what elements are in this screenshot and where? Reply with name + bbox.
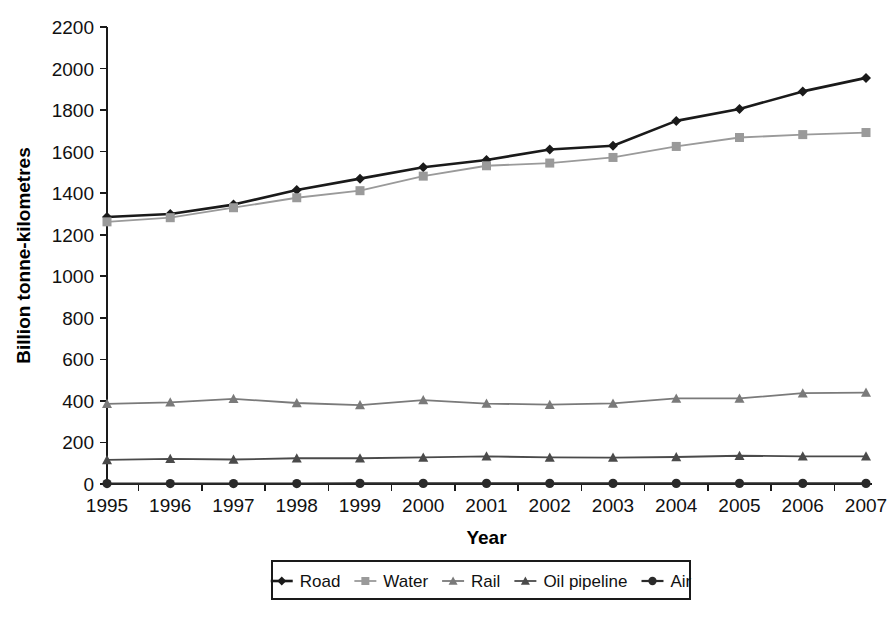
data-point-marker <box>861 479 870 488</box>
series-rail <box>102 388 871 410</box>
data-point-marker <box>672 142 681 151</box>
series-line <box>107 78 866 217</box>
x-axis-tick-label: 2004 <box>655 495 698 516</box>
x-axis-tick-label: 1995 <box>86 495 128 516</box>
series-line <box>107 133 866 222</box>
data-point-marker <box>419 479 428 488</box>
data-point-marker <box>735 133 744 142</box>
x-axis-tick-label: 2000 <box>402 495 444 516</box>
chart-container: 0200400600800100012001400160018002000220… <box>0 0 889 631</box>
data-point-marker <box>102 479 111 488</box>
chart-legend[interactable]: RoadWaterRailOil pipelineAir <box>271 561 692 599</box>
data-point-marker <box>292 479 301 488</box>
data-point-marker <box>418 162 428 172</box>
data-point-marker <box>292 193 301 202</box>
y-axis-tick-label: 1800 <box>52 100 94 121</box>
series-oil-pipeline <box>102 451 871 464</box>
y-axis-tick-label: 0 <box>83 474 94 495</box>
line-chart: 0200400600800100012001400160018002000220… <box>0 0 889 631</box>
y-axis-tick-label: 800 <box>62 308 94 329</box>
data-point-marker <box>419 172 428 181</box>
y-axis-tick-label: 1200 <box>52 225 94 246</box>
data-point-marker <box>361 577 369 585</box>
legend-label: Road <box>300 572 341 591</box>
data-point-marker <box>735 479 744 488</box>
series-air <box>102 479 870 488</box>
data-point-marker <box>861 73 871 83</box>
data-point-marker <box>166 479 175 488</box>
x-axis-tick-label: 2005 <box>718 495 760 516</box>
data-point-marker <box>735 104 745 114</box>
x-axis-tick-label: 2002 <box>529 495 571 516</box>
legend-label: Oil pipeline <box>543 572 627 591</box>
x-axis-tick-label: 2001 <box>465 495 507 516</box>
data-point-marker <box>103 217 112 226</box>
data-point-marker <box>545 145 555 155</box>
data-series-group <box>102 73 871 488</box>
data-point-marker <box>798 130 807 139</box>
data-point-marker <box>545 159 554 168</box>
data-point-marker <box>355 174 365 184</box>
x-axis-tick-label: 1998 <box>276 495 318 516</box>
data-point-marker <box>545 479 554 488</box>
data-point-marker <box>355 479 364 488</box>
data-point-marker <box>482 161 491 170</box>
series-water <box>103 128 871 226</box>
legend-label: Air <box>670 572 691 591</box>
data-point-marker <box>608 479 617 488</box>
y-axis-tick-label: 1600 <box>52 142 94 163</box>
data-point-marker <box>672 479 681 488</box>
x-axis-tick-label: 2006 <box>782 495 824 516</box>
y-axis-tick-label: 2000 <box>52 59 94 80</box>
data-point-marker <box>862 128 871 137</box>
data-point-marker <box>356 186 365 195</box>
data-point-marker <box>608 141 618 151</box>
legend-label: Water <box>383 572 428 591</box>
x-axis-tick-label: 1997 <box>212 495 254 516</box>
y-axis-tick-label: 2200 <box>52 17 94 38</box>
y-axis-title: Billion tonne-kilometres <box>13 147 34 363</box>
data-point-marker <box>229 479 238 488</box>
x-axis-tick-label: 2003 <box>592 495 634 516</box>
x-axis-title: Year <box>466 527 507 548</box>
y-axis: 0200400600800100012001400160018002000220… <box>52 17 107 495</box>
y-axis-tick-label: 600 <box>62 349 94 370</box>
y-axis-tick-label: 1000 <box>52 266 94 287</box>
data-point-marker <box>648 577 656 585</box>
x-axis: 1995199619971998199920002001200220032004… <box>86 484 887 516</box>
y-axis-tick-label: 400 <box>62 391 94 412</box>
data-point-marker <box>798 479 807 488</box>
y-axis-tick-label: 200 <box>62 432 94 453</box>
data-point-marker <box>229 203 238 212</box>
data-point-marker <box>798 86 808 96</box>
x-axis-tick-label: 2007 <box>845 495 887 516</box>
x-axis-tick-label: 1999 <box>339 495 381 516</box>
data-point-marker <box>671 116 681 126</box>
x-axis-tick-label: 1996 <box>149 495 191 516</box>
series-road <box>102 73 871 222</box>
y-axis-tick-label: 1400 <box>52 183 94 204</box>
data-point-marker <box>609 153 618 162</box>
legend-label: Rail <box>471 572 500 591</box>
data-point-marker <box>482 479 491 488</box>
data-point-marker <box>166 213 175 222</box>
